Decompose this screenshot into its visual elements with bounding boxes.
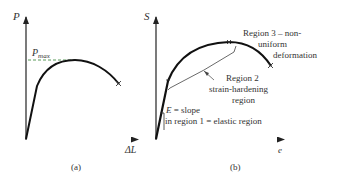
panel-b-y-axis-label: S [144, 12, 150, 21]
region3-label-line3: deformation [273, 51, 317, 60]
region1-label-line1-rest: = slope [172, 105, 201, 115]
panel-b-x-axis-label: e [278, 146, 282, 155]
panel-a-y-axis-label: P [13, 12, 20, 21]
region1-label-line2: in region 1 = elastic region [165, 117, 262, 126]
panel-a-chart [26, 17, 138, 140]
panel-a-caption: (a) [71, 163, 81, 172]
region3-label-line2: uniform [258, 40, 287, 49]
pmax-label-sub: max [38, 52, 50, 60]
region2-label-line1: Region 2 [226, 74, 259, 83]
region2-label-line2: strain-hardening [209, 85, 268, 94]
panel-a-x-axis-label: ΔL [125, 145, 136, 154]
panel-b-caption: (b) [230, 163, 241, 172]
pmax-label: Pmax [32, 48, 50, 59]
region1-label-line1: E = slope [166, 106, 200, 115]
region3-label-line1: Region 3 – non- [243, 29, 301, 38]
fracture-mark-a [116, 81, 121, 86]
region2-label-line3: region [232, 96, 255, 105]
panel-a-load-curve [26, 60, 119, 139]
